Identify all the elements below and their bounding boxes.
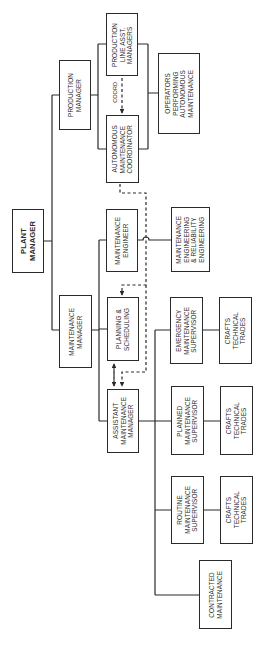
plant-manager-label: PLANT MANAGER bbox=[19, 221, 37, 261]
operators-box: OPERATORS PERFORMING AUTONOMOUS MAINTENA… bbox=[158, 53, 200, 134]
assistant-maintenance-manager-box: ASSISTANT MAINTENANCE MANAGER bbox=[107, 389, 139, 453]
maintenance-manager-box: MAINTENANCE MANAGER bbox=[59, 295, 92, 368]
planned-maintenance-supervisor-box: PLANNED MAINTENANCE SUPERVISOR bbox=[171, 386, 204, 455]
routine-maintenance-supervisor-label: ROUTINE MAINTENANCE SUPERVISOR bbox=[176, 486, 199, 534]
maintenance-branch bbox=[92, 240, 107, 421]
operators-bracket bbox=[138, 44, 158, 149]
routine-maintenance-supervisor-box: ROUTINE MAINTENANCE SUPERVISOR bbox=[171, 476, 204, 544]
autonomous-maintenance-coordinator-label: AUTONOMOUS MAINTENANCE COORDINATOR bbox=[111, 125, 134, 173]
maintenance-engineer-box: MAINTENANCE ENGINEER bbox=[106, 209, 138, 272]
maintenance-manager-label: MAINTENANCE MANAGER bbox=[68, 308, 83, 356]
trunk-line bbox=[43, 95, 59, 330]
crafts-emergency-box: CRAFTS TECHNICAL TRADES bbox=[219, 297, 252, 364]
production-manager-label: PRODUCTION MANAGER bbox=[67, 73, 82, 117]
emergency-maintenance-supervisor-label: EMERGENCY MAINTENANCE SUPERVISOR bbox=[175, 307, 198, 355]
coord-annotation: COORD bbox=[112, 82, 118, 103]
maintenance-reliability-engineering-box: MAINTENANCE ENGINEERING & RELIABILITY EN… bbox=[171, 207, 210, 272]
crafts-routine-box: CRAFTS TECHNICAL TRADES bbox=[220, 476, 253, 544]
maintenance-reliability-engineering-label: MAINTENANCE ENGINEERING & RELIABILITY EN… bbox=[175, 216, 205, 264]
planned-maintenance-supervisor-label: PLANNED MAINTENANCE SUPERVISOR bbox=[176, 397, 199, 445]
emergency-maintenance-supervisor-box: EMERGENCY MAINTENANCE SUPERVISOR bbox=[170, 297, 203, 364]
crafts-planned-box: CRAFTS TECHNICAL TRADES bbox=[220, 386, 253, 455]
plant-manager-box: PLANT MANAGER bbox=[12, 209, 44, 273]
autonomous-maintenance-coordinator-box: AUTONOMOUS MAINTENANCE COORDINATOR bbox=[106, 115, 139, 183]
org-chart: COORD PLANT MANAGER PRODUCTION MANAGER P… bbox=[0, 0, 269, 650]
planning-scheduling-box: PLANNING & SCHEDULING bbox=[107, 297, 139, 361]
crafts-links bbox=[203, 330, 220, 510]
production-line-asst-managers-label: PRODUCTION LINE ASST. MANAGERS bbox=[111, 23, 134, 67]
contracted-maintenance-label: CONTRACTED MAINTENANCE bbox=[208, 571, 223, 619]
operators-label: OPERATORS PERFORMING AUTONOMOUS MAINTENA… bbox=[164, 70, 194, 118]
assistant-maintenance-manager-label: ASSISTANT MAINTENANCE MANAGER bbox=[112, 397, 135, 445]
production-manager-box: PRODUCTION MANAGER bbox=[59, 60, 91, 130]
maintenance-engineer-label: MAINTENANCE ENGINEER bbox=[114, 217, 129, 265]
engineer-link bbox=[138, 237, 171, 240]
production-bracket bbox=[91, 44, 106, 149]
crafts-routine-label: CRAFTS TECHNICAL TRADES bbox=[225, 491, 248, 528]
contracted-maintenance-box: CONTRACTED MAINTENANCE bbox=[199, 560, 232, 629]
production-line-asst-managers-box: PRODUCTION LINE ASST. MANAGERS bbox=[106, 13, 138, 76]
supervisor-branch bbox=[139, 330, 199, 595]
planning-scheduling-label: PLANNING & SCHEDULING bbox=[115, 308, 130, 351]
crafts-emergency-label: CRAFTS TECHNICAL TRADES bbox=[224, 312, 247, 349]
crafts-planned-label: CRAFTS TECHNICAL TRADES bbox=[225, 402, 248, 439]
